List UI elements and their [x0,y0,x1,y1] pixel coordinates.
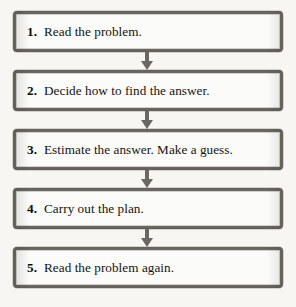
arrow-head [141,120,153,129]
step-text: 2. Decide how to find the answer. [13,70,283,111]
arrow-down-icon [141,229,153,247]
step-number: 2. [27,83,37,99]
flowchart-step-3: 3. Estimate the answer. Make a guess. [13,129,283,170]
step-number: 1. [27,24,37,40]
arrow-head [141,179,153,188]
arrow-down-icon [141,170,153,188]
step-text: 1. Read the problem. [13,11,283,52]
step-number: 3. [27,142,37,158]
step-label: Decide how to find the answer. [44,83,210,99]
step-label: Read the problem again. [44,260,174,276]
step-label: Read the problem. [44,24,142,40]
step-text: 3. Estimate the answer. Make a guess. [13,129,283,170]
flowchart-diagram: 1. Read the problem. 2. Decide how to fi… [0,0,296,307]
flowchart-step-5: 5. Read the problem again. [13,247,283,288]
step-text: 5. Read the problem again. [13,247,283,288]
step-text: 4. Carry out the plan. [13,188,283,229]
arrow-down-icon [141,52,153,70]
arrow-head [141,61,153,70]
step-number: 4. [27,201,37,217]
step-label: Carry out the plan. [44,201,144,217]
step-number: 5. [27,260,37,276]
flowchart-step-1: 1. Read the problem. [13,11,283,52]
arrow-down-icon [141,111,153,129]
arrow-head [141,238,153,247]
flowchart-step-2: 2. Decide how to find the answer. [13,70,283,111]
step-label: Estimate the answer. Make a guess. [44,142,233,158]
flowchart-step-4: 4. Carry out the plan. [13,188,283,229]
